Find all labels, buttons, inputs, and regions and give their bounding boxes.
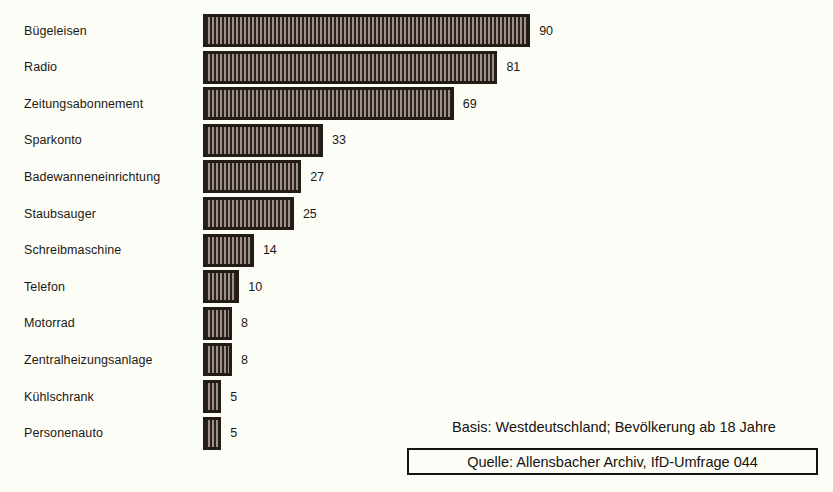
- bar: [203, 14, 530, 47]
- basis-note: Basis: Westdeutschland; Bevölkerung ab 1…: [402, 418, 826, 436]
- bar-value-label: 8: [241, 353, 248, 367]
- bar: [203, 160, 301, 193]
- bar: [203, 87, 454, 120]
- bar: [203, 51, 497, 84]
- bar-value-label: 5: [230, 390, 237, 404]
- bar: [203, 417, 221, 450]
- bar: [203, 197, 294, 230]
- bar-value-label: 81: [506, 60, 520, 74]
- bar-value-label: 8: [241, 316, 248, 330]
- bar: [203, 380, 221, 413]
- bar: [203, 124, 323, 157]
- source-note: Quelle: Allensbacher Archiv, IfD-Umfrage…: [467, 453, 758, 471]
- bar-value-label: 69: [463, 97, 477, 111]
- bar-value-label: 10: [248, 280, 262, 294]
- bar: [203, 343, 232, 376]
- source-box: Quelle: Allensbacher Archiv, IfD-Umfrage…: [407, 448, 818, 475]
- bar-value-label: 25: [303, 207, 317, 221]
- bar-value-label: 27: [310, 170, 324, 184]
- bar-value-label: 90: [539, 24, 553, 38]
- bar-value-label: 33: [332, 133, 346, 147]
- bar: [203, 234, 254, 267]
- bar-value-label: 14: [263, 243, 277, 257]
- bar-value-label: 5: [230, 426, 237, 440]
- bar-chart: BügeleisenRadioZeitungsabonnementSparkon…: [0, 0, 833, 492]
- bar: [203, 270, 239, 303]
- bar: [203, 307, 232, 340]
